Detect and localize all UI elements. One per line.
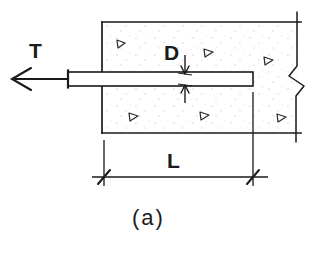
figure-container: T D L (a): [0, 0, 331, 253]
anchor-bar-body: [68, 72, 253, 86]
tension-force-label: T: [29, 40, 42, 61]
tension-force-arrow: [12, 68, 68, 90]
embedment-length-label: L: [167, 150, 180, 171]
anchor-embedment-diagram: [0, 0, 331, 253]
diameter-label: D: [164, 42, 179, 63]
anchor-bar: [68, 71, 253, 88]
figure-caption: (a): [132, 207, 165, 229]
